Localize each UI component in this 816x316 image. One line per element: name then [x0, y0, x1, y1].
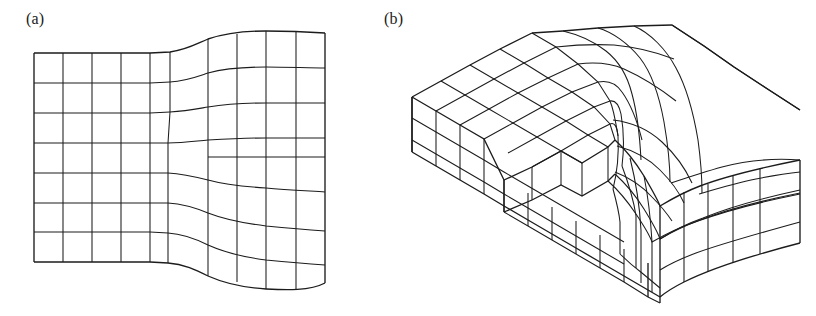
mesh-row-1: [34, 67, 325, 83]
mesh-row-7: [34, 262, 325, 290]
mesh-row-6: [34, 232, 325, 265]
mesh-row-4: [34, 173, 325, 192]
panel-b-mesh: [408, 0, 816, 316]
mesh-row-0: [34, 31, 325, 53]
right-face-bottom-edge: [660, 243, 800, 297]
mesh-2d-group: [34, 31, 325, 290]
mesh-row-3: [34, 138, 325, 143]
mesh-col-5: [168, 52, 170, 263]
panel-b: (b): [408, 0, 816, 316]
panel-b-label: (b): [384, 10, 403, 28]
panel-a-mesh: [0, 0, 408, 316]
mesh-row-2: [34, 103, 325, 113]
panel-a: (a): [0, 0, 408, 316]
mesh-row-5: [34, 203, 325, 231]
figure-root: (a): [0, 0, 816, 316]
